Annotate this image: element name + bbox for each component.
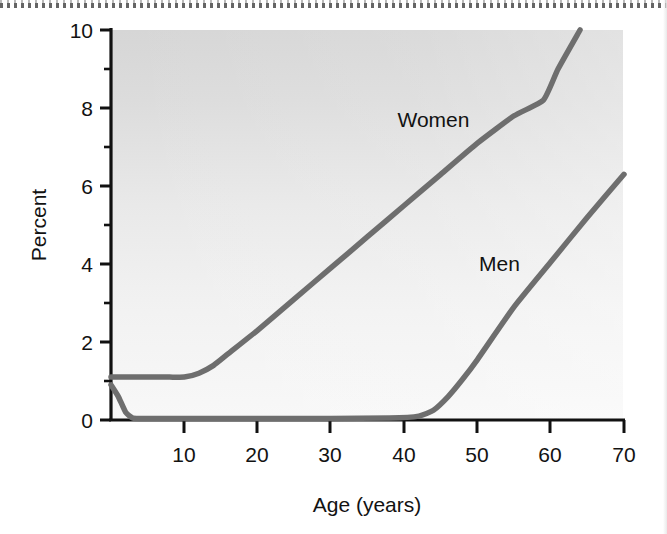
y-axis: 10 8 6 4 2 0 Percent (27, 19, 111, 432)
series-label-women: Women (398, 108, 470, 131)
chart-figure: 10 8 6 4 2 0 Percent 10 20 30 40 50 60 7… (0, 0, 667, 534)
y-tick-label-8: 8 (81, 97, 93, 120)
x-tick-label-20: 20 (245, 443, 268, 466)
x-tick-label-10: 10 (172, 443, 195, 466)
x-tick-label-40: 40 (392, 443, 415, 466)
y-tick-label-0: 0 (81, 409, 93, 432)
x-tick-label-70: 70 (612, 443, 635, 466)
series-label-men: Men (479, 252, 520, 275)
x-tick-label-50: 50 (465, 443, 488, 466)
line-chart: 10 8 6 4 2 0 Percent 10 20 30 40 50 60 7… (0, 0, 667, 534)
y-tick-label-4: 4 (81, 253, 93, 276)
y-tick-label-2: 2 (81, 331, 93, 354)
y-tick-label-10: 10 (70, 19, 93, 42)
y-axis-title: Percent (27, 189, 50, 262)
x-tick-label-60: 60 (538, 443, 561, 466)
x-tick-label-30: 30 (318, 443, 341, 466)
x-axis-title: Age (years) (313, 493, 422, 516)
x-axis: 10 20 30 40 50 60 70 Age (years) (109, 420, 636, 516)
plot-panel-highlight (111, 30, 623, 420)
y-tick-label-6: 6 (81, 175, 93, 198)
